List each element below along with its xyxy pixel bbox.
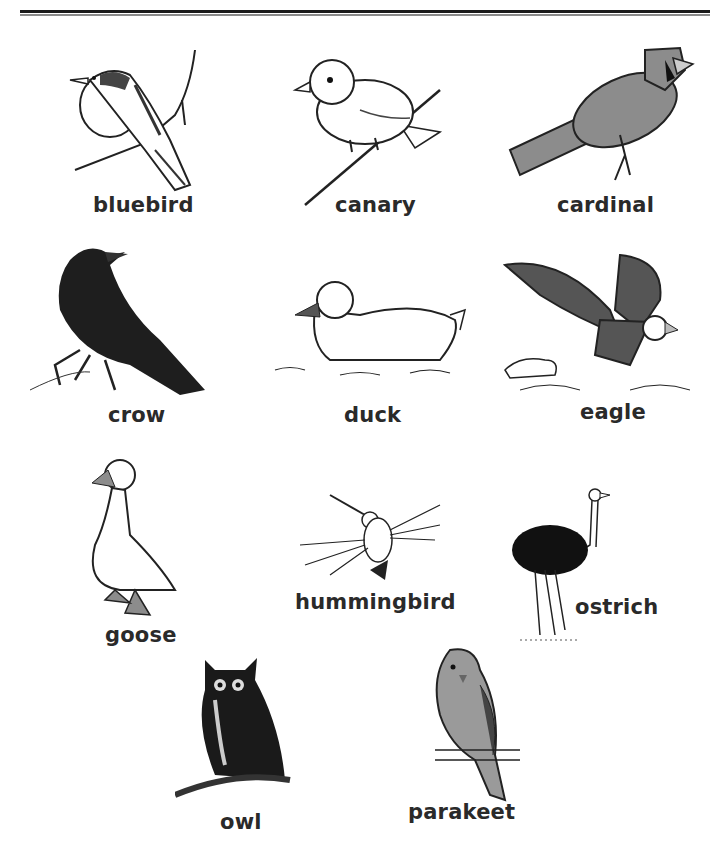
eagle-icon <box>500 250 700 395</box>
bird-card-hummingbird: hummingbird <box>290 490 460 620</box>
hummingbird-icon <box>290 490 460 580</box>
header-rule-thick <box>20 10 710 13</box>
goose-icon <box>80 455 200 620</box>
cardinal-icon <box>505 40 695 200</box>
bird-card-bluebird: bluebird <box>60 40 220 230</box>
bird-label-ostrich: ostrich <box>575 595 658 619</box>
bird-label-duck: duck <box>344 403 401 427</box>
bird-label-eagle: eagle <box>580 400 646 424</box>
bird-label-owl: owl <box>220 810 262 834</box>
bird-card-duck: duck <box>270 275 470 435</box>
bird-card-crow: crow <box>30 240 210 430</box>
bluebird-icon <box>60 40 220 200</box>
bird-card-owl: owl <box>175 655 305 845</box>
bird-card-ostrich: ostrich <box>510 485 660 655</box>
bird-label-bluebird: bluebird <box>93 193 194 217</box>
header-rule-thin <box>20 14 710 16</box>
parakeet-icon <box>405 645 525 815</box>
bird-label-crow: crow <box>108 403 165 427</box>
ostrich-icon <box>510 485 660 650</box>
bird-label-goose: goose <box>105 623 177 647</box>
bird-label-canary: canary <box>335 193 416 217</box>
bird-card-parakeet: parakeet <box>405 645 525 835</box>
bird-card-canary: canary <box>290 40 460 230</box>
owl-icon <box>175 655 305 805</box>
bird-label-hummingbird: hummingbird <box>295 590 456 614</box>
bird-card-goose: goose <box>80 455 200 655</box>
bird-label-parakeet: parakeet <box>408 800 515 824</box>
bird-card-cardinal: cardinal <box>505 40 695 230</box>
canary-icon <box>290 40 460 210</box>
duck-icon <box>270 275 470 385</box>
bird-label-cardinal: cardinal <box>557 193 654 217</box>
crow-icon <box>30 240 210 400</box>
bird-card-eagle: eagle <box>500 250 700 430</box>
